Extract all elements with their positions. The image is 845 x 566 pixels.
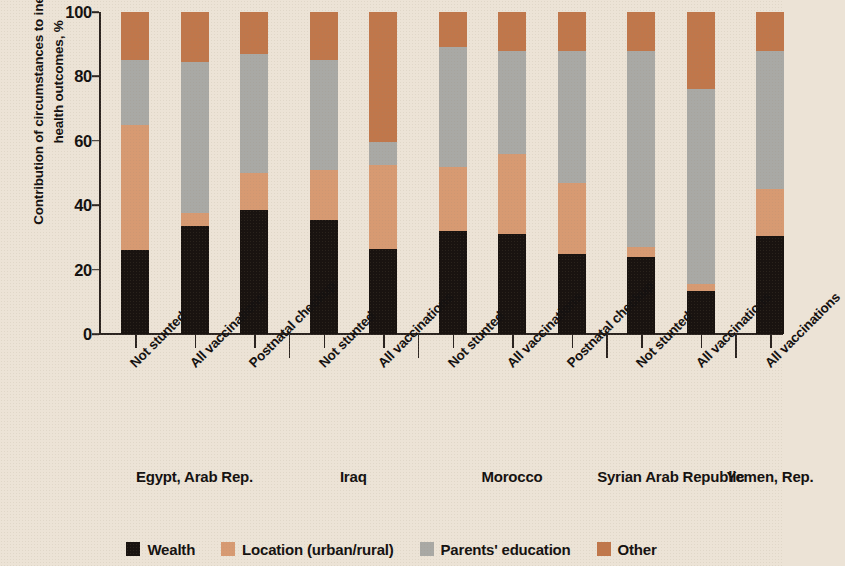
legend-swatch-icon (420, 542, 434, 556)
bar-segment (181, 213, 209, 226)
bar-segment (181, 62, 209, 213)
bar-stack (181, 12, 209, 334)
bar-stack (121, 12, 149, 334)
legend-swatch-icon (597, 542, 611, 556)
bar-segment (687, 12, 715, 89)
bar-segment (310, 60, 338, 169)
bar-stack (558, 12, 586, 334)
bar-segment (181, 12, 209, 62)
y-tick-mark (92, 11, 99, 13)
plot-area (99, 12, 783, 334)
bar-segment (498, 154, 526, 235)
bar-segment (558, 51, 586, 183)
bar-segment (498, 51, 526, 154)
bar-segment (369, 165, 397, 249)
bar-segment (121, 125, 149, 251)
bar-segment (439, 167, 467, 231)
legend-item: Wealth (126, 541, 195, 558)
bar-stack (439, 12, 467, 334)
y-tick-mark (92, 269, 99, 271)
bar-segment (756, 189, 784, 236)
bar-segment (756, 12, 784, 51)
country-label: Yemen, Rep. (695, 466, 845, 487)
legend-swatch-icon (221, 542, 235, 556)
y-axis-ticks: 020406080100 (46, 0, 92, 340)
bar-segment (627, 12, 655, 51)
bar-stack (498, 12, 526, 334)
y-tick-label: 40 (46, 196, 92, 215)
bar-segment (627, 247, 655, 257)
country-label: Egypt, Arab Rep. (120, 466, 270, 487)
bar-segment (439, 47, 467, 166)
legend-item: Parents' education (420, 541, 571, 558)
y-tick-label: 80 (46, 67, 92, 86)
legend-label: Parents' education (441, 541, 571, 558)
x-axis-labels: Not stuntedAll vaccinationsPostnatal che… (0, 346, 783, 456)
bar-stack (369, 12, 397, 334)
y-tick-label: 20 (46, 260, 92, 279)
legend-label: Location (urban/rural) (242, 541, 393, 558)
bar-segment (310, 170, 338, 220)
bar-segment (240, 173, 268, 210)
bar-segment (240, 12, 268, 54)
bar-segment (498, 12, 526, 51)
bar-segment (369, 142, 397, 165)
bar-stack (756, 12, 784, 334)
chart-legend: WealthLocation (urban/rural)Parents' edu… (0, 536, 783, 562)
bar-segment (558, 12, 586, 51)
bar-segment (240, 54, 268, 173)
bar-segment (627, 51, 655, 247)
bar-segment (121, 60, 149, 124)
country-group-labels: Egypt, Arab Rep.IraqMoroccoSyrian Arab R… (0, 466, 783, 522)
y-tick-mark (92, 76, 99, 78)
bar-segment (310, 12, 338, 60)
y-tick-mark (92, 140, 99, 142)
country-label: Iraq (278, 466, 428, 487)
bar-segment (369, 12, 397, 142)
bar-segment (310, 220, 338, 334)
bar-segment (121, 12, 149, 60)
bar-segment (439, 12, 467, 47)
legend-item: Location (urban/rural) (221, 541, 393, 558)
bar-segment (121, 250, 149, 334)
y-tick-label: 100 (46, 3, 92, 22)
country-label: Morocco (437, 466, 587, 487)
bar-stack (240, 12, 268, 334)
bar-segment (756, 236, 784, 334)
legend-swatch-icon (126, 542, 140, 556)
bar-stack (687, 12, 715, 334)
bar-segment (756, 51, 784, 189)
legend-item: Other (597, 541, 657, 558)
bar-segment (687, 291, 715, 334)
y-tick-mark (92, 204, 99, 206)
bar-segment (687, 89, 715, 284)
legend-label: Other (618, 541, 657, 558)
y-tick-label: 60 (46, 131, 92, 150)
bar-segment (439, 231, 467, 334)
legend-label: Wealth (147, 541, 195, 558)
bar-segment (558, 183, 586, 254)
